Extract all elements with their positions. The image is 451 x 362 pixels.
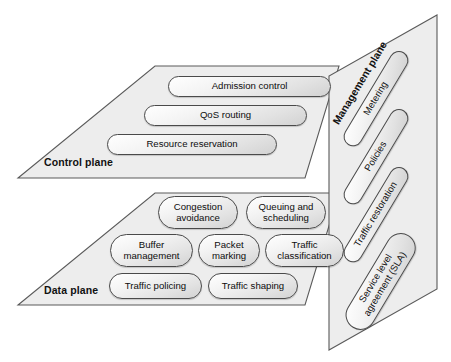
pill-packet-marking[interactable]: Packet marking [198,234,260,267]
pill-buffer-management[interactable]: Buffer management [110,234,193,267]
pill-congestion-avoidance[interactable]: Congestion avoidance [158,196,238,229]
pill-label: Resource reservation [146,139,237,150]
pill-label: avoidance [176,213,220,224]
pill-label: Buffer [139,240,164,251]
pill-admission-control[interactable]: Admission control [168,76,331,97]
pill-label: marking [212,251,246,262]
pill-queuing-and-scheduling[interactable]: Queuing and scheduling [246,196,326,229]
pill-label: Congestion [174,202,223,213]
pill-label: Queuing and [259,202,314,213]
pill-qos-routing[interactable]: QoS routing [144,105,307,126]
pill-label: Packet [214,240,243,251]
pill-resource-reservation[interactable]: Resource reservation [107,134,277,155]
qos-planes-diagram: Control plane Admission control QoS rout… [0,0,451,362]
pill-traffic-classification[interactable]: Traffic classification [265,234,344,267]
pill-label: Traffic [291,240,317,251]
pill-label: classification [277,251,331,262]
pill-label: management [124,251,180,262]
pill-label: Traffic shaping [222,281,284,292]
pill-label: QoS routing [200,110,251,121]
pill-label: Traffic policing [125,281,186,292]
pill-traffic-policing[interactable]: Traffic policing [109,273,202,299]
pill-label: Admission control [212,81,288,92]
data-plane-label: Data plane [44,284,98,296]
control-plane-label: Control plane [44,156,113,168]
pill-label: scheduling [263,213,309,224]
pill-traffic-shaping[interactable]: Traffic shaping [208,273,298,299]
